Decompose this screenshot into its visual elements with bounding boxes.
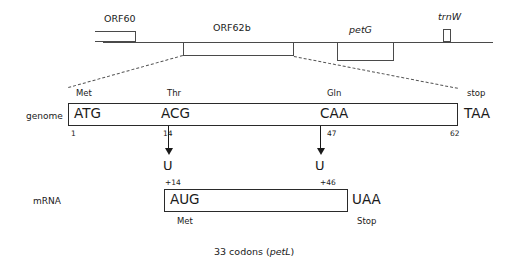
edited-base-u-2: U [315, 159, 325, 172]
amino-acid-label-met-genome: Met [76, 89, 92, 98]
amino-acid-label-thr: Thr [167, 89, 181, 98]
row-label-genome: genome [26, 112, 63, 121]
genome-sequence-box [68, 103, 458, 126]
codon-uaa: UAA [352, 193, 381, 207]
mrna-position-label-plus14: +14 [165, 179, 181, 187]
gene-box-orf62b [183, 42, 294, 56]
codon-atg: ATG [74, 107, 101, 121]
gene-label-trnw: trnW [438, 12, 461, 22]
caption-text-before: 33 codons ( [214, 246, 270, 257]
position-label-62: 62 [450, 130, 460, 138]
codon-caa: CAA [320, 107, 348, 121]
edit-arrow-head-1 [165, 148, 173, 155]
stop-label-genome: stop [467, 89, 485, 98]
edit-arrow-shaft-2 [320, 126, 321, 150]
gene-label-petg: petG [349, 25, 372, 35]
stop-label-mrna: Stop [357, 217, 376, 226]
gene-label-orf60: ORF60 [104, 14, 136, 24]
gene-box-petg [337, 42, 394, 61]
gene-box-orf60 [95, 31, 136, 42]
position-label-1: 1 [71, 130, 76, 138]
position-label-47: 47 [327, 130, 337, 138]
codon-aug: AUG [170, 193, 200, 207]
gene-label-orf62b: ORF62b [213, 23, 251, 33]
expansion-line-left [68, 55, 183, 88]
edit-arrow-shaft-1 [168, 126, 169, 150]
codon-acg: ACG [161, 107, 190, 121]
amino-acid-label-met-mrna: Met [177, 217, 193, 226]
codon-taa: TAA [464, 107, 490, 121]
genome-backbone-line [103, 42, 493, 43]
edit-arrow-head-2 [317, 148, 325, 155]
edited-base-u-1: U [163, 159, 173, 172]
amino-acid-label-gln: Gln [327, 89, 341, 98]
mrna-position-label-plus46: +46 [320, 179, 336, 187]
figure-caption: 33 codons (petL) [214, 247, 294, 257]
caption-gene-name: petL [270, 246, 291, 257]
gene-box-trnw [443, 29, 451, 42]
caption-text-after: ) [291, 246, 295, 257]
gene-editing-diagram: ORF60 ORF62b petG trnW genome Met ATG 1 … [0, 0, 524, 266]
row-label-mrna: mRNA [33, 197, 61, 206]
